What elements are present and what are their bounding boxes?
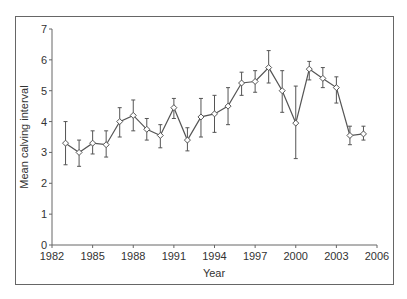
y-tick-label: 4 bbox=[41, 116, 47, 128]
x-tick-label: 1988 bbox=[121, 250, 145, 262]
data-point-marker bbox=[212, 111, 218, 117]
data-point-marker bbox=[103, 142, 109, 148]
line-chart: 0123456719821985198819911994199720002003… bbox=[0, 0, 407, 299]
y-tick-label: 7 bbox=[41, 23, 47, 35]
data-point-marker bbox=[279, 88, 285, 94]
y-tick-label: 3 bbox=[41, 146, 47, 158]
data-point-marker bbox=[225, 103, 231, 109]
x-tick-label: 1997 bbox=[243, 250, 267, 262]
x-tick-label: 1991 bbox=[162, 250, 186, 262]
x-tick-label: 1982 bbox=[40, 250, 64, 262]
data-point-marker bbox=[239, 80, 245, 86]
x-tick-label: 2000 bbox=[284, 250, 308, 262]
x-axis-label: Year bbox=[203, 267, 226, 279]
data-point-marker bbox=[157, 132, 163, 138]
data-point-marker bbox=[171, 105, 177, 111]
y-axis-label: Mean calving interval bbox=[18, 85, 30, 188]
x-tick-label: 2003 bbox=[324, 250, 348, 262]
figure-frame bbox=[16, 17, 394, 285]
x-tick-label: 1994 bbox=[202, 250, 226, 262]
data-point-marker bbox=[347, 132, 353, 138]
y-tick-label: 1 bbox=[41, 208, 47, 220]
y-tick-label: 2 bbox=[41, 177, 47, 189]
data-point-marker bbox=[117, 119, 123, 125]
x-tick-label: 1985 bbox=[80, 250, 104, 262]
error-bars bbox=[64, 51, 366, 167]
data-point-marker bbox=[293, 120, 299, 126]
chart-container: 0123456719821985198819911994199720002003… bbox=[0, 0, 407, 299]
y-tick-label: 5 bbox=[41, 85, 47, 97]
y-tick-label: 6 bbox=[41, 54, 47, 66]
data-point-marker bbox=[198, 114, 204, 120]
data-point-marker bbox=[184, 137, 190, 143]
x-tick-label: 2006 bbox=[365, 250, 389, 262]
data-point-marker bbox=[360, 131, 366, 137]
